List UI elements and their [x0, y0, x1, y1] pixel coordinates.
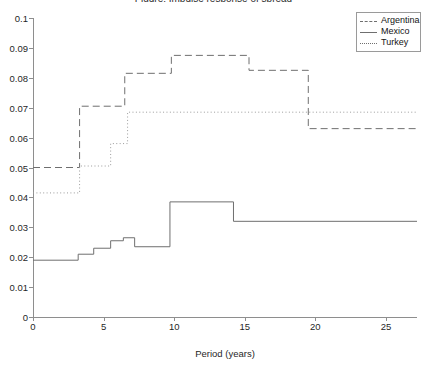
- x-tick-label: 20: [310, 321, 321, 332]
- y-tick-label: 0.1: [15, 13, 28, 24]
- x-tick-label: 0: [30, 321, 35, 332]
- legend-line-dashed-icon: [359, 16, 378, 26]
- series-line-mexico: [33, 202, 417, 260]
- chart-legend[interactable]: Argentina Mexico Turkey: [356, 12, 421, 52]
- legend-item-argentina[interactable]: Argentina: [359, 15, 418, 26]
- legend-line-dotted-icon: [359, 38, 378, 48]
- y-tick-label: 0.02: [10, 252, 29, 263]
- legend-line-solid-icon: [359, 27, 378, 37]
- y-tick-label: 0.07: [10, 102, 29, 113]
- x-tick-label: 25: [381, 321, 392, 332]
- y-tick-label: 0.03: [10, 222, 29, 233]
- y-tick-label: 0.09: [10, 42, 29, 53]
- legend-label: Turkey: [381, 37, 408, 48]
- y-tick-label: 0: [23, 312, 28, 323]
- x-axis-line: [33, 317, 417, 318]
- legend-item-turkey[interactable]: Turkey: [359, 37, 418, 48]
- x-axis-title: Period (years): [33, 348, 417, 359]
- series-line-argentina: [33, 55, 417, 167]
- legend-label: Mexico: [381, 26, 410, 37]
- y-tick-label: 0.08: [10, 72, 29, 83]
- series-line-turkey: [33, 112, 417, 193]
- chart-title: Figure: Impulse response of spread: [0, 0, 427, 2]
- y-tick-label: 0.04: [10, 192, 29, 203]
- x-tick-label: 15: [239, 321, 250, 332]
- plot-area: 00.010.020.030.040.050.060.070.080.090.1…: [33, 18, 417, 317]
- series-lines: [33, 18, 417, 317]
- y-tick-label: 0.01: [10, 282, 29, 293]
- y-tick-label: 0.06: [10, 132, 29, 143]
- legend-label: Argentina: [381, 15, 420, 26]
- y-tick-label: 0.05: [10, 162, 29, 173]
- chart-figure: Figure: Impulse response of spread 00.01…: [0, 0, 427, 368]
- x-tick-label: 10: [169, 321, 180, 332]
- legend-item-mexico[interactable]: Mexico: [359, 26, 418, 37]
- x-tick-label: 5: [101, 321, 106, 332]
